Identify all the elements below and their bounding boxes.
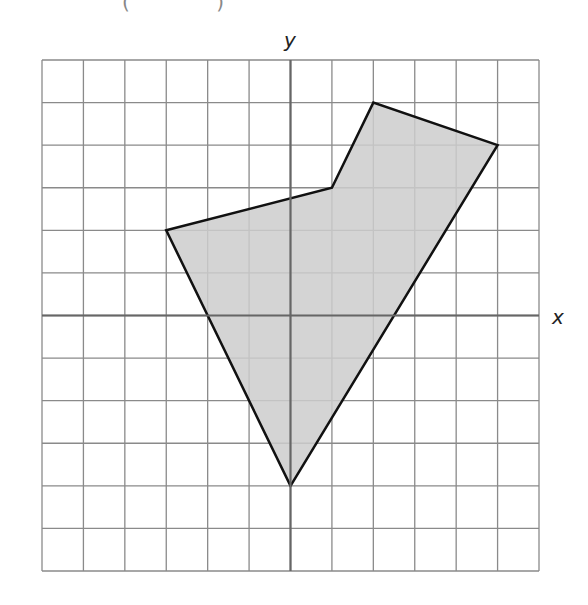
grid-svg (0, 0, 588, 605)
coordinate-plane-figure: ( ) y x (0, 0, 588, 605)
